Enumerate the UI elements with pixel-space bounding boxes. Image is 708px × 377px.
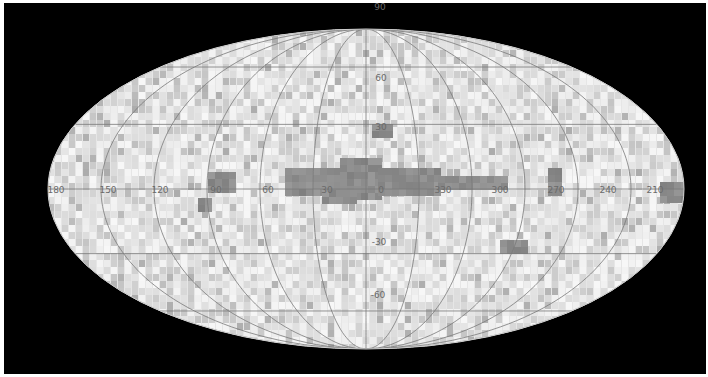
longitude-label: 300	[491, 185, 508, 195]
longitude-label: 0	[378, 185, 384, 195]
longitude-label: 240	[599, 185, 616, 195]
sky-map-frame: 1801501209060300330300270240210906030-30…	[4, 3, 706, 374]
latitude-label: 30	[375, 122, 387, 132]
longitude-label: 90	[210, 185, 222, 195]
longitude-label: 270	[547, 185, 564, 195]
longitude-label: 180	[47, 185, 64, 195]
sky-map: 1801501209060300330300270240210906030-30…	[4, 3, 706, 374]
longitude-label: 330	[434, 185, 451, 195]
longitude-label: 210	[646, 185, 663, 195]
longitude-label: 60	[262, 185, 274, 195]
longitude-label: 150	[99, 185, 116, 195]
longitude-label: 120	[151, 185, 168, 195]
latitude-label: 60	[375, 73, 387, 83]
latitude-label: 90	[374, 3, 386, 12]
longitude-label: 30	[321, 185, 333, 195]
latitude-label: -30	[372, 237, 387, 247]
latitude-label: -60	[371, 290, 386, 300]
